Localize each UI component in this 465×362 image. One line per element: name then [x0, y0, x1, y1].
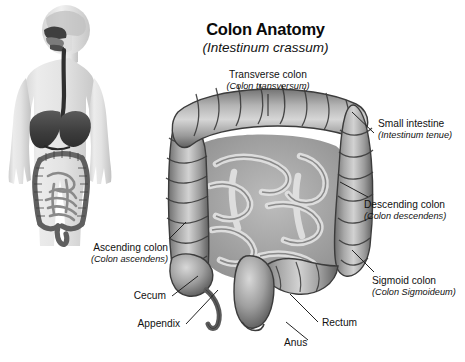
label-appendix: Appendix: [98, 318, 180, 330]
human-body-figure: [0, 0, 160, 280]
label-descending-colon: Descending colon (Colon descendens): [364, 199, 446, 222]
rectum-anus: [234, 256, 274, 331]
label-small-intestine: Small intestine (Intestinum tenue): [378, 118, 452, 141]
label-cecum: Cecum: [88, 290, 166, 302]
label-rectum: Rectum: [322, 317, 357, 329]
label-transverse-colon: Transverse colon (Colon transversum): [194, 69, 342, 92]
label-ascending-colon-line1: Ascending colon: [48, 242, 168, 254]
label-descending-colon-line2: (Colon descendens): [364, 211, 446, 223]
label-small-intestine-line1: Small intestine: [378, 118, 452, 130]
label-ascending-colon-line2: (Colon ascendens): [48, 254, 168, 266]
title-latin: (Intestinum crassum): [193, 40, 338, 56]
label-anus: Anus: [284, 337, 307, 349]
label-anus-line1: Anus: [284, 337, 307, 349]
label-appendix-line1: Appendix: [98, 318, 180, 330]
descending-colon-segment: [335, 105, 373, 276]
label-rectum-line1: Rectum: [322, 317, 357, 329]
label-ascending-colon: Ascending colon (Colon ascendens): [48, 242, 168, 265]
title-main: Colon Anatomy: [193, 20, 338, 39]
label-sigmoid-colon-line2: (Colon Sigmoideum): [372, 287, 456, 299]
label-transverse-colon-line1: Transverse colon: [194, 69, 342, 81]
page-title: Colon Anatomy (Intestinum crassum): [193, 20, 338, 56]
label-transverse-colon-line2: (Colon transversum): [194, 81, 342, 93]
esophagus: [62, 50, 64, 120]
label-small-intestine-line2: (Intestinum tenue): [378, 130, 452, 142]
small-intestine-mass: [193, 135, 353, 283]
colon-anatomy-illustration: Colon Anatomy (Intestinum crassum) Trans…: [0, 0, 465, 362]
label-sigmoid-colon: Sigmoid colon (Colon Sigmoideum): [372, 275, 456, 298]
label-descending-colon-line1: Descending colon: [364, 199, 446, 211]
appendix-segment: [206, 290, 219, 329]
label-sigmoid-colon-line1: Sigmoid colon: [372, 275, 456, 287]
label-cecum-line1: Cecum: [88, 290, 166, 302]
